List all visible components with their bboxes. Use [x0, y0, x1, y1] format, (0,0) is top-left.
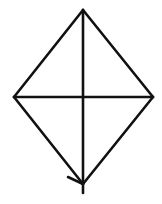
edge-top-right — [83, 10, 153, 97]
edge-top-left — [14, 10, 83, 97]
edge-bottom-left — [14, 97, 83, 184]
kite-diagram — [0, 0, 162, 204]
edge-bottom-right — [83, 97, 153, 184]
